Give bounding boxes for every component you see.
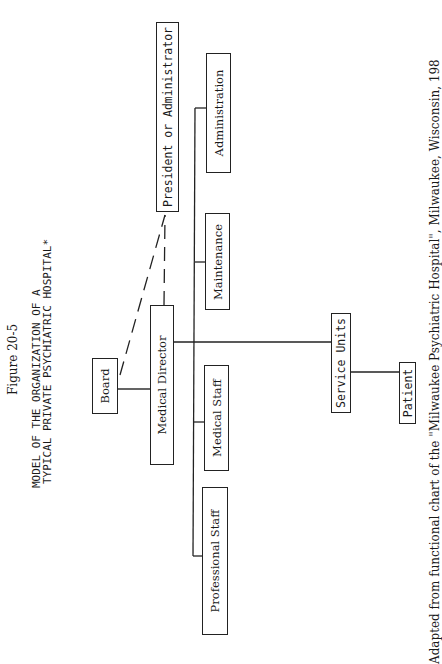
node-patient: Patient [399, 362, 416, 424]
node-board: Board [92, 358, 118, 414]
figure-label: Figure 20-5 [6, 324, 20, 395]
node-professional-staff: Professional Staff [202, 487, 228, 635]
node-administration: Administration [206, 53, 231, 173]
node-maintenance: Maintenance [205, 213, 230, 310]
footnote: Adapted from functional chart of the "Mi… [428, 59, 442, 664]
figure-title-line2: TYPICAL PRIVATE PSYCHIATRIC HOSPITAL* [42, 239, 54, 484]
node-medical-director: Medical Director [150, 305, 174, 465]
node-service-units: Service Units [331, 313, 351, 413]
node-medical-staff: Medical Staff [204, 365, 229, 471]
node-president-or-administrator: President or Administrator [156, 22, 179, 212]
